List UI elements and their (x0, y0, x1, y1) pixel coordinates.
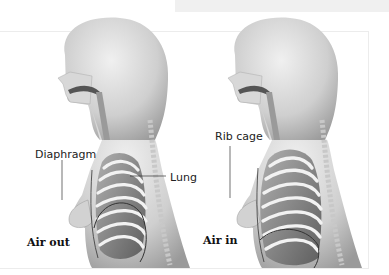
label-rib-cage: Rib cage (215, 131, 263, 142)
torso-illustration-exhale (30, 0, 200, 275)
label-lung: Lung (170, 172, 197, 183)
caption-air-in: Air in (203, 235, 238, 246)
label-diaphragm: Diaphragm (35, 149, 96, 160)
caption-air-out: Air out (27, 237, 70, 248)
